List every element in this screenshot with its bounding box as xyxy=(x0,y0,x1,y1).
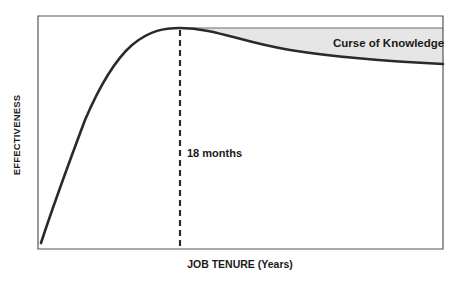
y-axis-label: EFFECTIVENESS xyxy=(11,95,22,176)
effectiveness-curve xyxy=(41,28,443,243)
marker-label: 18 months xyxy=(187,147,242,159)
x-axis-label: JOB TENURE (Years) xyxy=(0,258,466,270)
curse-of-knowledge-label: Curse of Knowledge xyxy=(333,37,444,49)
